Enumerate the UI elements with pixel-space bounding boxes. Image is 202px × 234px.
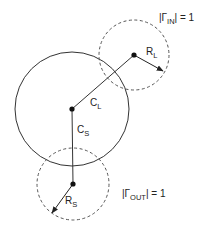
gamma-in-label: |ΓIN| = 1 (159, 12, 195, 26)
cl-label: CL (90, 97, 101, 111)
output-center-dot (70, 181, 75, 186)
gamma-out-label: |ΓOUT| = 1 (122, 188, 166, 202)
cs-label: CS (77, 124, 89, 138)
cl-vector-line (72, 55, 134, 109)
rl-arrow (134, 55, 163, 71)
rs-label: RS (65, 195, 77, 209)
input-center-dot (131, 52, 136, 57)
main-center-dot (69, 106, 74, 111)
cs-vector-line (72, 109, 73, 184)
stability-circle-diagram: |ΓIN| = 1 |ΓOUT| = 1 CL CS RL RS (0, 0, 202, 234)
rl-label: RL (146, 46, 157, 60)
